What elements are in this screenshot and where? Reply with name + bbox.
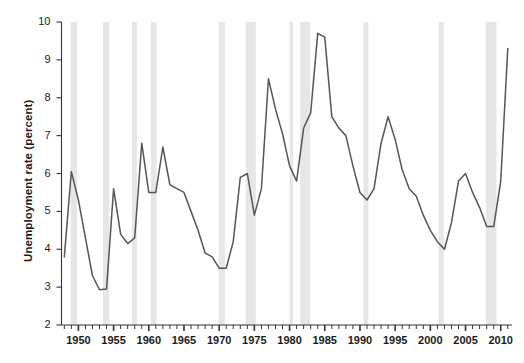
recession-band (439, 22, 444, 325)
recession-shading-group (71, 22, 497, 325)
recession-band (132, 22, 137, 325)
plot-area (0, 0, 524, 363)
recession-band (218, 22, 224, 325)
recession-band (300, 22, 310, 325)
unemployment-rate-chart: Unemployment rate (percent) 2345678910 1… (0, 0, 524, 363)
recession-band (363, 22, 368, 325)
recession-band (151, 22, 157, 325)
recession-band (486, 22, 497, 325)
recession-band (103, 22, 109, 325)
